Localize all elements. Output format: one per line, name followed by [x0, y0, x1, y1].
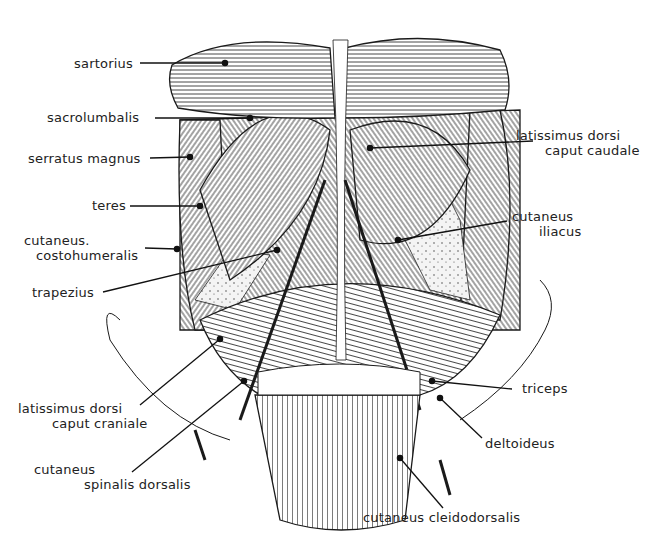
label-sacrolumbalis: sacrolumbalis	[47, 110, 139, 125]
label-latissimus-dorsi-caput-craniale: latissimus dorsi caput craniale	[18, 401, 148, 431]
label-text-line2: iliacus	[512, 224, 581, 239]
label-sartorius: sartorius	[74, 56, 133, 71]
label-text-line2: caput caudale	[516, 143, 640, 158]
label-cutaneus-spinalis-dorsalis: cutaneus spinalis dorsalis	[34, 462, 191, 492]
label-text: deltoideus	[485, 436, 555, 451]
label-text-line1: latissimus dorsi	[18, 401, 148, 416]
label-cutaneus-costohumeralis: cutaneus. costohumeralis	[24, 233, 138, 263]
label-text-line2: spinalis dorsalis	[34, 477, 191, 492]
label-deltoideus: deltoideus	[485, 436, 555, 451]
label-text: cutaneus cleidodorsalis	[363, 510, 520, 525]
label-cutaneus-iliacus: cutaneus iliacus	[512, 209, 581, 239]
label-text: triceps	[522, 381, 568, 396]
muscle-drawing	[107, 38, 552, 530]
label-text-line1: cutaneus	[34, 462, 191, 477]
label-triceps: triceps	[522, 381, 568, 396]
label-text-line1: cutaneus	[512, 209, 581, 224]
label-cutaneus-cleidodorsalis: cutaneus cleidodorsalis	[363, 510, 520, 525]
label-text: teres	[92, 198, 126, 213]
label-text: serratus magnus	[28, 151, 141, 166]
label-text-line2: costohumeralis	[24, 248, 138, 263]
label-text: sacrolumbalis	[47, 110, 139, 125]
label-trapezius: trapezius	[32, 285, 94, 300]
label-text-line1: cutaneus.	[24, 233, 138, 248]
label-text-line1: latissimus dorsi	[516, 128, 640, 143]
label-serratus-magnus: serratus magnus	[28, 151, 141, 166]
label-text: trapezius	[32, 285, 94, 300]
label-text-line2: caput craniale	[18, 416, 148, 431]
label-latissimus-dorsi-caput-caudale: latissimus dorsi caput caudale	[516, 128, 640, 158]
label-teres: teres	[92, 198, 126, 213]
label-text: sartorius	[74, 56, 133, 71]
